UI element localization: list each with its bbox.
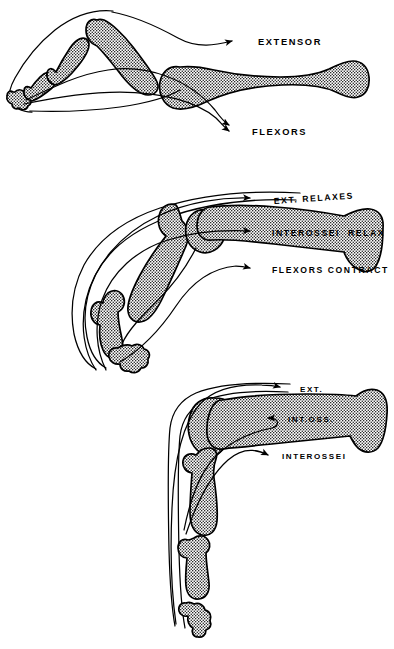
volar-contour-extended: [30, 90, 180, 111]
bone-proximal-phalanx-flexed: [128, 204, 188, 322]
label-int-oss: INT.OSS.: [288, 415, 334, 424]
bone-distal-phalanx-flexed: [109, 344, 150, 372]
bone-proximal-phalanx-extended: [47, 38, 89, 85]
label-flexors-contract: FLEXORS CONTRACT: [272, 265, 389, 275]
bone-metacarpal-proximal-extended: [86, 19, 158, 95]
label-ext: EXT.: [300, 385, 323, 394]
anatomy-figure: EXTENSOR FLEXORS: [0, 0, 394, 649]
figure-canvas: EXTENSOR FLEXORS: [0, 0, 394, 649]
bone-middle-phalanx-intrinsic: [178, 536, 210, 599]
bone-metacarpal-shaft-flexed: [197, 206, 383, 272]
label-extensor: EXTENSOR: [258, 37, 322, 47]
label-interossei-relax: INTEROSSEI RELAX: [272, 228, 385, 238]
panel-flexed: EXT. RELAXES INTEROSSEI RELAX FLEXORS CO…: [72, 190, 389, 372]
panel-intrinsic-plus: EXT. INT.OSS. INTEROSSEI: [168, 383, 387, 637]
label-flexors: FLEXORS: [252, 127, 307, 137]
bone-long-shaft-extended: [160, 61, 370, 109]
panel-extended: EXTENSOR FLEXORS: [7, 11, 369, 137]
label-interossei: INTEROSSEI: [282, 452, 346, 461]
tendon-extensor-extended: [112, 12, 232, 45]
